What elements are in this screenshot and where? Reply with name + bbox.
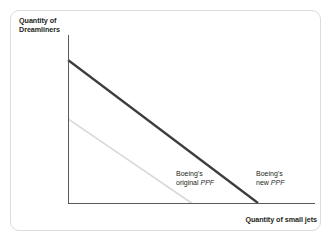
- ppf-line-original: [68, 119, 192, 203]
- annotation-original-ppf: Boeing's original PPF: [176, 170, 214, 187]
- annotation-original-line1: Boeing's: [176, 170, 214, 179]
- annotation-new-ppf: Boeing's new PPF: [256, 170, 284, 187]
- y-axis-label: Quantity of Dreamliners: [19, 16, 79, 34]
- annotation-new-line2-text: new: [256, 179, 271, 186]
- x-axis-label: Quantity of small jets: [205, 215, 317, 224]
- annotation-new-ppf-abbr: PPF: [271, 179, 285, 186]
- annotation-original-ppf-abbr: PPF: [201, 179, 215, 186]
- annotation-new-line1: Boeing's: [256, 170, 284, 179]
- ppf-plot: [0, 0, 333, 243]
- ppf-figure: Quantity of Dreamliners Quantity of smal…: [0, 0, 333, 243]
- annotation-original-line2-text: original: [176, 179, 201, 186]
- ppf-line-new: [68, 60, 258, 203]
- annotation-new-line2: new PPF: [256, 179, 284, 188]
- annotation-original-line2: original PPF: [176, 179, 214, 188]
